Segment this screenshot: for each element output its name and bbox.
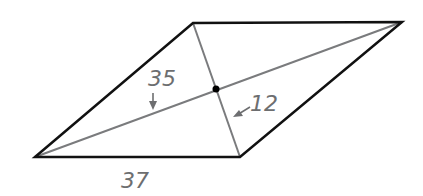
label-37: 37 <box>121 168 149 193</box>
rhombus-diagram: 35 12 37 <box>0 0 423 196</box>
arrow-35-icon <box>149 93 157 110</box>
arrow-12-icon <box>233 107 250 117</box>
label-35: 35 <box>148 66 176 91</box>
label-12: 12 <box>250 91 278 116</box>
intersection-point <box>213 86 220 93</box>
